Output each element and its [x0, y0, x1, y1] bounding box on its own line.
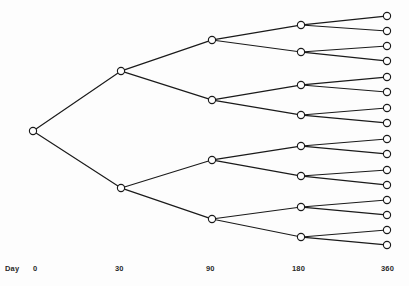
- tree-edge: [305, 200, 384, 206]
- tree-edge: [305, 115, 384, 122]
- tree-node: [297, 48, 304, 55]
- tree-node: [383, 27, 390, 34]
- tree-node: [297, 142, 304, 149]
- tree-edge: [305, 176, 384, 184]
- tree-node: [383, 57, 390, 64]
- tree-edge: [305, 16, 384, 24]
- tree-node: [297, 233, 304, 240]
- tree-edge: [305, 52, 384, 60]
- tree-edge: [216, 207, 298, 218]
- tree-node: [29, 127, 36, 134]
- tree-node: [383, 104, 390, 111]
- tree-edge: [36, 73, 118, 129]
- tree-edge: [216, 147, 298, 160]
- tree-node: [117, 184, 124, 191]
- tree-node: [208, 96, 215, 103]
- tree-edge: [124, 72, 208, 99]
- tree-node: [208, 36, 215, 43]
- tree-edge: [305, 170, 384, 176]
- tree-edge: [305, 146, 384, 153]
- tree-node: [383, 119, 390, 126]
- tree-node: [117, 67, 124, 74]
- tree-node: [383, 73, 390, 80]
- tree-edge: [216, 40, 298, 51]
- tree-node: [383, 88, 390, 95]
- tree-edge: [216, 101, 298, 115]
- tree-node: [383, 181, 390, 188]
- tree-edge: [305, 230, 384, 236]
- tree-edge: [305, 207, 384, 214]
- tree-node: [383, 135, 390, 142]
- tree-edge: [124, 161, 208, 187]
- tree-node: [297, 172, 304, 179]
- tree-node: [297, 21, 304, 28]
- tree-node: [383, 196, 390, 203]
- tree-node: [297, 81, 304, 88]
- tree-edge: [305, 77, 384, 84]
- node-layer: [29, 12, 390, 248]
- tree-node: [383, 241, 390, 248]
- tree-diagram-figure: Day 03090180360: [0, 0, 409, 286]
- tree-edge: [305, 237, 384, 244]
- edge-layer: [36, 16, 383, 244]
- tree-node: [383, 42, 390, 49]
- tree-node: [208, 215, 215, 222]
- tree-graphic: [0, 0, 409, 286]
- tree-edge: [216, 26, 298, 40]
- tree-node: [297, 203, 304, 210]
- tree-edge: [216, 220, 298, 237]
- tree-edge: [305, 139, 384, 145]
- tree-edge: [36, 133, 118, 186]
- tree-edge: [305, 108, 384, 114]
- tree-node: [383, 166, 390, 173]
- tree-edge: [305, 25, 384, 31]
- tree-node: [297, 111, 304, 118]
- tree-node: [383, 150, 390, 157]
- tree-edge: [216, 161, 298, 176]
- tree-edge: [124, 189, 208, 218]
- tree-edge: [305, 46, 384, 52]
- tree-edge: [305, 85, 384, 91]
- tree-node: [208, 156, 215, 163]
- tree-edge: [124, 41, 208, 70]
- tree-edge: [216, 86, 298, 100]
- tree-node: [383, 211, 390, 218]
- tree-node: [383, 226, 390, 233]
- tree-node: [383, 12, 390, 19]
